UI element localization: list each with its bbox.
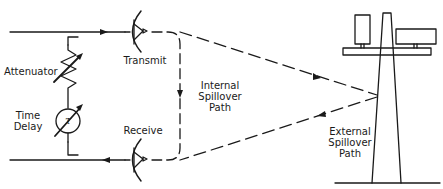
time-delay-label-line1: Time: [8, 110, 48, 121]
arrow-left-icon: [317, 111, 326, 117]
arrow-right-icon: [100, 29, 108, 35]
external-label-line3: Path: [320, 148, 380, 159]
transmit-label: Transmit: [110, 55, 180, 66]
spillover-diagram: Attenuator Time Delay τ Transmit Receive…: [0, 0, 443, 189]
internal-spillover-path: [152, 32, 183, 160]
time-delay-label: Time Delay: [8, 110, 48, 132]
external-label-line1: External: [320, 126, 380, 137]
internal-spillover-label: Internal Spillover Path: [190, 80, 250, 113]
output-signal-line: [10, 157, 125, 163]
receive-antenna-icon: [125, 139, 147, 181]
transmit-antenna-icon: [125, 11, 147, 52]
input-signal-line: [10, 29, 125, 35]
tau-symbol: τ: [62, 115, 74, 126]
receive-label: Receive: [108, 125, 178, 136]
external-spillover-label: External Spillover Path: [320, 126, 380, 159]
internal-label-line2: Spillover: [190, 91, 250, 102]
attenuator-label: Attenuator: [4, 66, 58, 77]
time-delay-label-line2: Delay: [8, 121, 48, 132]
attenuator-icon: [54, 45, 83, 108]
external-label-line2: Spillover: [320, 137, 380, 148]
arrow-down-icon: [177, 90, 183, 98]
arrow-left-icon: [102, 157, 110, 163]
internal-label-line3: Path: [190, 102, 250, 113]
internal-label-line1: Internal: [190, 80, 250, 91]
